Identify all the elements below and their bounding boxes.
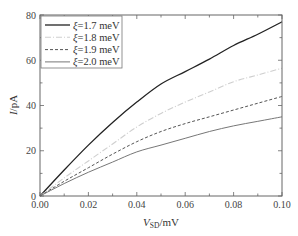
legend-label: ξ=1.7 meV xyxy=(73,20,120,32)
x-tick-label: 0.08 xyxy=(225,199,243,210)
x-tick-label: 0.04 xyxy=(128,199,146,210)
y-tick-label: 0 xyxy=(31,191,36,202)
y-tick-label: 80 xyxy=(26,10,36,21)
y-axis-tick-labels: 020406080 xyxy=(26,10,36,202)
series-line-4 xyxy=(40,117,282,196)
x-tick-label: 0.10 xyxy=(273,199,291,210)
series-line-2 xyxy=(40,68,282,196)
chart: 0.000.020.040.060.080.10 020406080 VSD/m… xyxy=(0,0,298,236)
legend: ξ=1.7 meVξ=1.8 meVξ=1.9 meVξ=2.0 meV xyxy=(41,16,122,68)
legend-label: ξ=2.0 meV xyxy=(73,56,120,68)
x-tick-label: 0.06 xyxy=(176,199,194,210)
y-tick-label: 60 xyxy=(26,55,36,66)
legend-label: ξ=1.8 meV xyxy=(73,32,120,44)
x-axis-label-unit: /mV xyxy=(159,216,179,228)
x-axis-label: VSD/mV xyxy=(143,216,179,230)
legend-label: ξ=1.9 meV xyxy=(73,44,120,56)
x-axis-tick-labels: 0.000.020.040.060.080.10 xyxy=(31,199,291,210)
y-axis-label-unit: /pA xyxy=(7,95,19,112)
y-tick-label: 20 xyxy=(26,145,36,156)
x-tick-label: 0.02 xyxy=(80,199,98,210)
y-tick-label: 40 xyxy=(26,100,36,111)
series-line-3 xyxy=(40,96,282,196)
y-axis-label: I/pA xyxy=(7,95,19,116)
